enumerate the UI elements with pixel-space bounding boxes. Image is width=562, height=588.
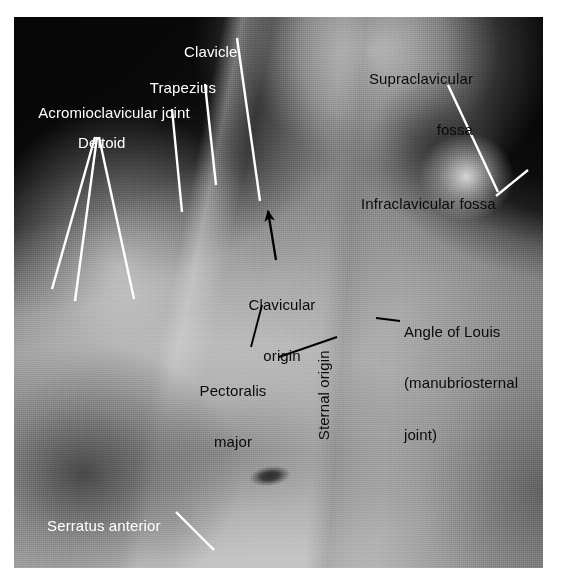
label-clavicular-origin-line-1: Clavicular — [240, 296, 324, 313]
label-pectoralis-major-line-2: major — [190, 433, 276, 450]
label-sternal-origin-text: Sternal origin — [315, 350, 332, 440]
label-serratus-anterior-text: Serratus anterior — [47, 517, 160, 534]
label-angle-of-louis-line-2: (manubriosternal — [404, 374, 518, 391]
label-deltoid-text: Deltoid — [78, 134, 125, 151]
label-pectoralis-major-line-1: Pectoralis — [190, 382, 276, 399]
anatomical-figure: Acromioclavicular joint Deltoid Trapeziu… — [0, 0, 562, 588]
label-infraclavicular-fossa[interactable]: Infraclavicular fossa — [344, 178, 496, 229]
label-clavicle-text: Clavicle — [184, 43, 237, 60]
label-infraclavicular-fossa-text: Infraclavicular fossa — [361, 195, 496, 212]
label-supraclavicular-fossa[interactable]: Supraclavicular fossa — [333, 36, 473, 173]
label-angle-of-louis[interactable]: Angle of Louis (manubriosternal joint) — [404, 289, 518, 477]
label-angle-of-louis-line-1: Angle of Louis — [404, 323, 518, 340]
label-supraclavicular-fossa-line-1: Supraclavicular — [333, 70, 473, 87]
label-serratus-anterior[interactable]: Serratus anterior — [30, 500, 161, 551]
label-trapezius-text: Trapezius — [150, 79, 216, 96]
label-pectoralis-major[interactable]: Pectoralis major — [190, 348, 276, 485]
label-angle-of-louis-line-3: joint) — [404, 426, 518, 443]
label-sternal-origin[interactable]: Sternal origin — [298, 350, 349, 457]
label-deltoid[interactable]: Deltoid — [61, 117, 125, 168]
label-supraclavicular-fossa-line-2: fossa — [333, 121, 473, 138]
label-clavicle[interactable]: Clavicle — [167, 26, 237, 77]
